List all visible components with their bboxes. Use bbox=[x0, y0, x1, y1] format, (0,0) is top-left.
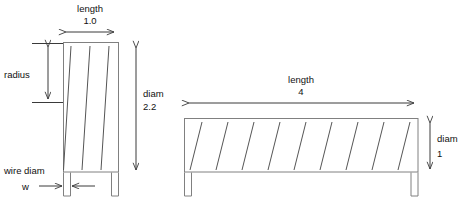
left-spring-group: length 1.0 radius diam 2.2 wire diam w bbox=[3, 3, 164, 196]
left-spring-body bbox=[64, 43, 119, 173]
left-coil-wire bbox=[82, 46, 90, 170]
left-spring-leg-left bbox=[64, 173, 71, 197]
right-coil-wire bbox=[346, 122, 358, 170]
right-coil-wire bbox=[242, 122, 254, 170]
left-diam-title: diam bbox=[143, 88, 164, 99]
left-radius-label: radius bbox=[4, 69, 30, 80]
right-coil-wire bbox=[190, 122, 202, 170]
right-coil-wire bbox=[372, 122, 384, 170]
right-spring-group: length 4 diam 1 bbox=[185, 74, 458, 196]
left-wire-diam-label: wire diam bbox=[3, 165, 45, 176]
left-coil-wire bbox=[101, 46, 109, 170]
right-coil-wire bbox=[216, 122, 228, 170]
right-spring-leg-right bbox=[411, 173, 418, 197]
spring-dimension-diagram: length 1.0 radius diam 2.2 wire diam w l… bbox=[0, 0, 468, 210]
right-coil-wire bbox=[398, 122, 410, 170]
left-spring-leg-right bbox=[112, 173, 119, 197]
right-diam-value: 1 bbox=[437, 148, 442, 159]
left-wire-symbol-label: w bbox=[21, 181, 29, 192]
right-coil-wire bbox=[320, 122, 332, 170]
right-coil-wire bbox=[294, 122, 306, 170]
right-length-title: length bbox=[288, 74, 314, 85]
right-spring-leg-left bbox=[185, 173, 192, 197]
right-coil-wire bbox=[268, 122, 280, 170]
left-diam-value: 2.2 bbox=[143, 101, 156, 112]
left-coil-wire bbox=[64, 46, 72, 170]
left-length-value: 1.0 bbox=[83, 15, 96, 26]
left-length-title: length bbox=[77, 3, 103, 14]
right-diam-title: diam bbox=[437, 133, 458, 144]
right-length-value: 4 bbox=[298, 86, 303, 97]
